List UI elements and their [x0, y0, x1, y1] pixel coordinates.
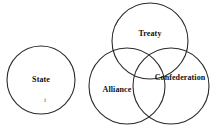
- state-sub-mark-annotation: t: [44, 97, 46, 103]
- diagram-svg: [0, 0, 211, 126]
- label-state: State: [32, 76, 50, 84]
- circle-confederation: [133, 48, 209, 124]
- circle-treaty: [112, 3, 188, 79]
- label-alliance: Alliance: [103, 86, 132, 94]
- venn-diagram-canvas: State Treaty Alliance Confederation t: [0, 0, 211, 126]
- label-confederation: Confederation: [155, 74, 206, 82]
- label-treaty: Treaty: [139, 30, 162, 38]
